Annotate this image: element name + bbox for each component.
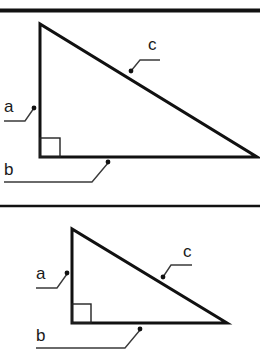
label-c-small: c (183, 242, 192, 261)
large-triangle-group: a b c (4, 24, 257, 182)
leader-b-small-dot (138, 327, 143, 332)
leader-a-dot (32, 106, 37, 111)
leader-a-small-dot (65, 271, 70, 276)
right-angle-marker-small (72, 304, 91, 323)
leader-b (4, 163, 108, 182)
label-a: a (4, 97, 14, 116)
leader-c (131, 60, 160, 71)
label-b-small: b (36, 326, 45, 345)
right-angle-marker (40, 138, 60, 157)
small-triangle-group: a b c (36, 229, 227, 348)
leader-c-dot (129, 69, 134, 74)
label-a-small: a (36, 264, 46, 283)
leader-b-small (36, 330, 140, 348)
right-triangle-diagram: a b c a b c (0, 0, 260, 351)
leader-b-dot (106, 160, 111, 165)
leader-c-small-dot (161, 275, 166, 280)
label-b: b (4, 160, 13, 179)
label-c: c (148, 35, 157, 54)
small-triangle (72, 229, 227, 323)
leader-c-small (163, 265, 192, 277)
